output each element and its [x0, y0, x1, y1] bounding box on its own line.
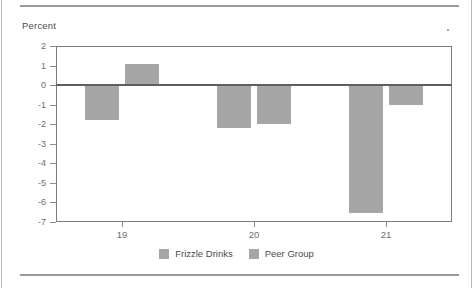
y-axis-tick-label: 1 — [20, 61, 46, 71]
plot-area — [56, 46, 452, 222]
y-axis-tick-label: 2 — [20, 41, 46, 51]
bar — [217, 85, 251, 128]
bar — [85, 85, 119, 120]
legend-item-label: Peer Group — [265, 248, 314, 259]
y-axis-tick-label: -3 — [20, 139, 46, 149]
x-axis-tick — [122, 222, 123, 227]
y-axis-tick-label: -4 — [20, 158, 46, 168]
y-axis-tick — [50, 124, 56, 125]
chart-legend: Frizzle DrinksPeer Group — [0, 248, 473, 259]
y-axis-tick-label: -7 — [20, 217, 46, 227]
bar — [125, 64, 159, 86]
y-axis-tick — [50, 105, 56, 106]
y-axis-title: Percent — [22, 20, 56, 31]
y-axis-tick-label: -2 — [20, 119, 46, 129]
y-axis-tick-label: -1 — [20, 100, 46, 110]
legend-item[interactable]: Frizzle Drinks — [159, 248, 233, 259]
y-axis-tick-label: -5 — [20, 178, 46, 188]
x-axis-tick-label: 19 — [92, 229, 152, 240]
y-axis-tick — [50, 144, 56, 145]
x-axis-tick — [386, 222, 387, 227]
y-axis-tick — [50, 66, 56, 67]
bar — [257, 85, 291, 124]
y-axis-tick-label: 0 — [20, 80, 46, 90]
y-axis-tick — [50, 183, 56, 184]
bar-chart: Percent 210-1-2-3-4-5-6-7 192021 Frizzle… — [0, 0, 473, 288]
x-axis-tick-label: 21 — [356, 229, 416, 240]
y-axis-tick — [50, 202, 56, 203]
document-page: Percent 210-1-2-3-4-5-6-7 192021 Frizzle… — [0, 0, 473, 288]
legend-item[interactable]: Peer Group — [249, 248, 314, 259]
x-axis-tick-label: 20 — [224, 229, 284, 240]
zero-baseline — [56, 84, 452, 86]
legend-item-label: Frizzle Drinks — [175, 248, 233, 259]
x-axis-tick — [254, 222, 255, 227]
y-axis-tick — [50, 163, 56, 164]
legend-swatch-icon — [159, 249, 169, 259]
y-axis-tick-label: -6 — [20, 197, 46, 207]
bar — [389, 85, 423, 105]
y-axis-tick — [50, 46, 56, 47]
y-axis-tick — [50, 222, 56, 223]
legend-swatch-icon — [249, 249, 259, 259]
bar — [349, 85, 383, 213]
